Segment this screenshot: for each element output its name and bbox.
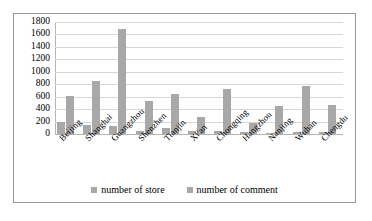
y-tick-label-400: 400	[36, 104, 50, 114]
legend-label: number of store	[101, 185, 164, 195]
bar-group	[291, 22, 317, 134]
y-axis-tick-labels: 180016001400120010008006004002000	[14, 14, 53, 142]
y-tick-label-800: 800	[36, 79, 50, 89]
legend-label: number of comment	[197, 185, 278, 195]
y-tick-label-1000: 1000	[31, 67, 50, 77]
legend-swatch-icon	[187, 187, 193, 193]
y-tick-label-1800: 1800	[31, 17, 50, 27]
x-axis-category-labels: BeijingShanghaiGuangzhouShenzhenTianjinX…	[55, 136, 343, 191]
y-tick-label-600: 600	[36, 92, 50, 102]
chart-container: 180016001400120010008006004002000 Beijin…	[13, 13, 356, 203]
legend-item[interactable]: number of store	[91, 185, 164, 195]
bar-group	[186, 22, 212, 134]
legend-item[interactable]: number of comment	[187, 185, 278, 195]
y-tick-label-1400: 1400	[31, 42, 50, 52]
y-tick-label-0: 0	[45, 129, 50, 139]
y-tick-label-200: 200	[36, 117, 50, 127]
chart-legend: number of storenumber of comment	[14, 185, 355, 195]
plot-area	[55, 22, 343, 134]
y-tick-label-1600: 1600	[31, 30, 50, 40]
y-tick-label-1200: 1200	[31, 55, 50, 65]
legend-swatch-icon	[91, 187, 97, 193]
